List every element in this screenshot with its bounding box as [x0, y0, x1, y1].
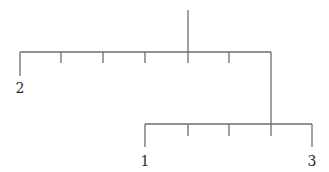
tree-diagram: 2 1 3: [0, 0, 329, 172]
leaf-label-1: 1: [141, 153, 150, 169]
leaf-label-3: 3: [308, 153, 317, 169]
leaf-label-2: 2: [16, 80, 25, 96]
